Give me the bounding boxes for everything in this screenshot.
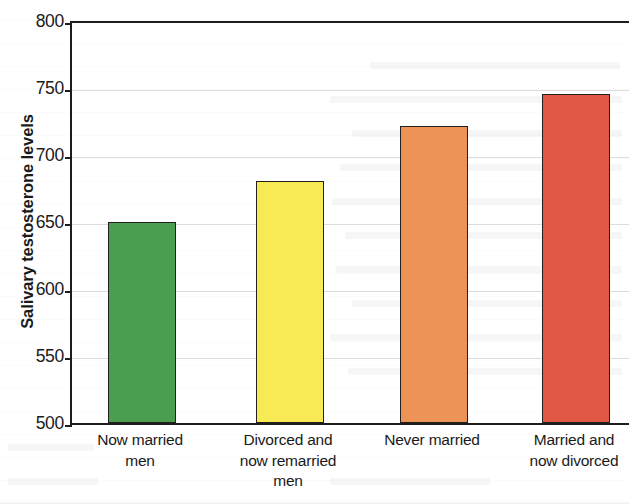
y-tick-label: 800 (0, 11, 64, 32)
y-tick-mark (65, 291, 72, 293)
y-axis-tick-labels: 800 750 700 650 600 550 500 (0, 0, 64, 504)
y-tick-mark (65, 90, 72, 92)
bar-now-married-men[interactable] (108, 222, 176, 423)
x-tick-label-line: men (213, 471, 363, 492)
x-tick-label-line: Divorced and (213, 430, 363, 451)
x-tick-label-line: now divorced (499, 451, 629, 472)
y-tick-mark (65, 23, 72, 25)
bars-group (72, 23, 629, 423)
bar-married-and-now-divorced[interactable] (542, 94, 610, 423)
plot-area (70, 21, 629, 425)
y-tick-mark (65, 425, 72, 427)
y-tick-label: 700 (0, 144, 64, 165)
x-tick-label-now-married-men: Now marriedmen (65, 430, 215, 471)
y-tick-label: 650 (0, 211, 64, 232)
bar-never-married[interactable] (400, 126, 468, 423)
x-tick-label-line: Married and (499, 430, 629, 451)
y-tick-mark (65, 157, 72, 159)
bar-chart-figure: Salivary testosterone levels 800 750 700… (0, 0, 629, 504)
x-tick-label-line: now remarried (213, 451, 363, 472)
x-axis-tick-labels: Now marriedmen Divorced andnow remarried… (70, 430, 629, 504)
x-tick-label-line: men (65, 451, 215, 472)
y-tick-label: 750 (0, 77, 64, 98)
x-tick-label-line: Now married (65, 430, 215, 451)
y-tick-label: 600 (0, 278, 64, 299)
y-tick-mark (65, 224, 72, 226)
x-tick-label-line: Never married (357, 430, 507, 451)
x-tick-label-married-and-now-divorced: Married andnow divorced (499, 430, 629, 471)
y-tick-mark (65, 358, 72, 360)
y-tick-label: 500 (0, 412, 64, 433)
x-tick-label-divorced-and-now-remarried-men: Divorced andnow remarriedmen (213, 430, 363, 492)
bar-divorced-and-now-remarried-men[interactable] (256, 181, 324, 423)
x-tick-label-never-married: Never married (357, 430, 507, 451)
y-tick-label: 550 (0, 345, 64, 366)
